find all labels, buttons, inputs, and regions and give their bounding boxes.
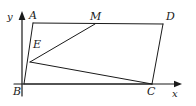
y-axis-label: y bbox=[7, 12, 13, 22]
vertex-label-c: C bbox=[147, 86, 155, 97]
x-axis-arrow-icon bbox=[174, 81, 182, 87]
geometry-figure: A B C D E M x y bbox=[0, 0, 196, 106]
segment-EC bbox=[30, 62, 152, 84]
segment-AD bbox=[33, 23, 163, 24]
segment-DC bbox=[152, 24, 163, 84]
vertex-label-d: D bbox=[166, 11, 175, 22]
vertex-label-b: B bbox=[13, 86, 21, 97]
y-axis-arrow-icon bbox=[19, 11, 26, 20]
segment-AB bbox=[24, 23, 33, 84]
vertex-label-a: A bbox=[29, 10, 37, 21]
vertex-label-m: M bbox=[90, 11, 101, 22]
segment-group bbox=[24, 23, 163, 84]
x-axis-label: x bbox=[172, 89, 178, 99]
vertex-label-e: E bbox=[33, 39, 41, 50]
